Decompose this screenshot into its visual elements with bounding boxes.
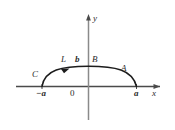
figure-canvas — [0, 0, 175, 130]
label-point-B: B — [92, 55, 98, 64]
curve-direction-arrowhead — [61, 69, 70, 74]
label-tick-a: a — [134, 89, 139, 98]
label-tick-minus-a: −a — [36, 89, 46, 98]
label-origin: 0 — [70, 89, 75, 98]
label-point-A: A — [121, 64, 127, 73]
label-tick-b: b — [75, 55, 80, 64]
math-figure: C L b B A −a 0 a x y — [0, 0, 175, 130]
y-axis — [86, 14, 91, 120]
label-curve-L: L — [61, 55, 66, 64]
label-point-C: C — [32, 70, 38, 79]
label-axis-x: x — [152, 89, 156, 98]
y-axis-arrowhead — [86, 14, 91, 21]
label-axis-y: y — [93, 14, 97, 23]
